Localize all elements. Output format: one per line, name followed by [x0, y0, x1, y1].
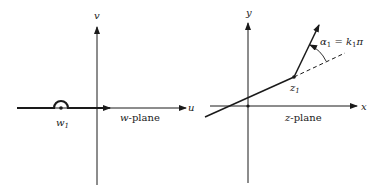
point-w1 [59, 106, 63, 110]
w1-label: w1 [56, 117, 69, 130]
dashed-extension [294, 53, 345, 77]
v-axis-label: v [94, 10, 100, 21]
y-axis-label: y [245, 7, 252, 18]
w-plane-panel: v u w1 w-plane [17, 10, 194, 185]
origin-point [246, 104, 249, 107]
outgoing-segment [294, 25, 319, 77]
conformal-map-diagram: v u w1 w-plane y x z1 α1 [0, 0, 377, 190]
z-plane-label: z-plane [284, 112, 322, 123]
z-plane-panel: y x z1 α1 = k1π z-plane [205, 7, 367, 183]
x-axis-label: x [361, 101, 367, 112]
angle-label: α1 = k1π [320, 36, 364, 49]
w-plane-label: w-plane [120, 112, 160, 123]
point-z1 [292, 75, 296, 79]
angle-arc [310, 45, 326, 61]
u-axis-label: u [188, 102, 194, 113]
incoming-segment [205, 77, 294, 117]
z1-label: z1 [289, 82, 300, 95]
